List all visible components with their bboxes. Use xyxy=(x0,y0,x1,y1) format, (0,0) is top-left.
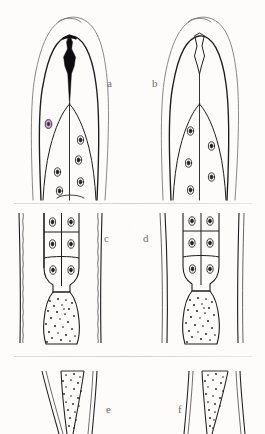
panel-label-f: f xyxy=(178,404,182,415)
divider-row1-row2 xyxy=(14,203,252,204)
panel-e-drawing xyxy=(42,371,97,434)
panel-label-c: c xyxy=(104,233,109,244)
panel-label-a: a xyxy=(107,78,112,89)
panel-label-b: b xyxy=(152,78,158,89)
panel-label-e: e xyxy=(106,404,111,415)
divider-row2-row3 xyxy=(14,356,252,357)
panel-a-drawing xyxy=(31,17,108,200)
panel-d-drawing xyxy=(160,213,244,344)
figure-root: a b c d e f xyxy=(0,0,265,434)
panel-c-drawing xyxy=(19,213,102,344)
panel-label-d: d xyxy=(143,233,149,244)
panel-b-drawing xyxy=(161,17,238,200)
panel-d-granules xyxy=(185,297,216,343)
figure-drawing-canvas xyxy=(0,0,265,434)
panel-c-granules xyxy=(45,298,76,343)
panel-f-drawing xyxy=(184,371,245,434)
panel-a-tinted-nucleus xyxy=(45,120,52,129)
